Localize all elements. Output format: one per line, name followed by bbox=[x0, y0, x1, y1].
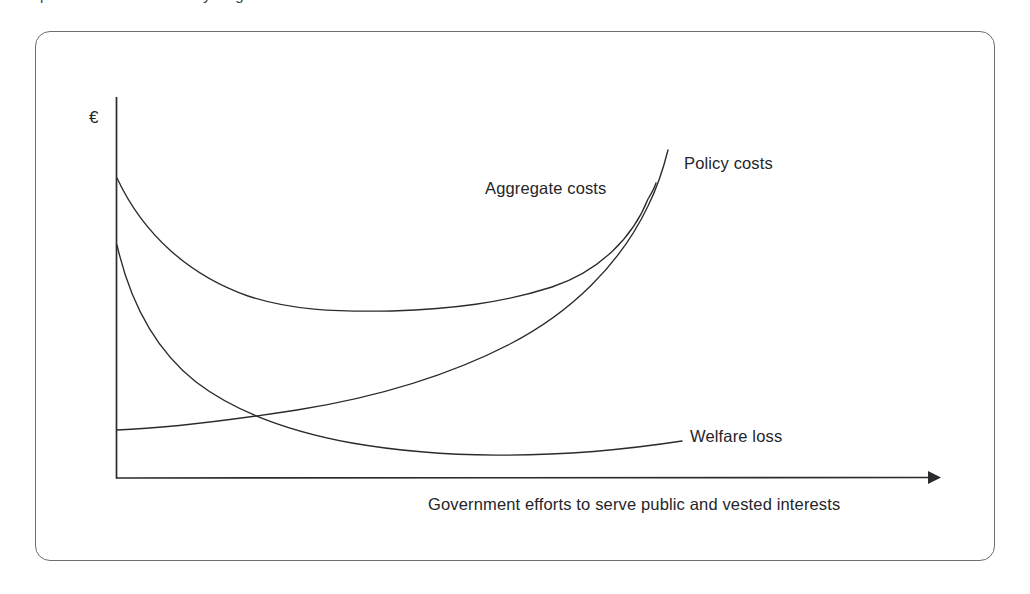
x-axis-line bbox=[116, 478, 928, 479]
welfare-loss-label: Welfare loss bbox=[690, 427, 782, 446]
policy-costs-label: Policy costs bbox=[684, 154, 773, 173]
y-axis-unit-label: € bbox=[89, 108, 98, 128]
x-axis-title: Government efforts to serve public and v… bbox=[428, 495, 840, 514]
x-axis-arrow-icon bbox=[928, 471, 941, 484]
aggregate-costs-label: Aggregate costs bbox=[485, 179, 607, 198]
figure-page: produced in the economy as government ef… bbox=[0, 0, 1030, 594]
